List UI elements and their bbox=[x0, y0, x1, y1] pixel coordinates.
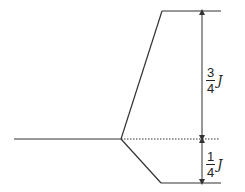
upper-denominator: 4 bbox=[207, 81, 214, 95]
lower-slope bbox=[121, 139, 161, 183]
upper-fraction-label: 3 4 J bbox=[206, 66, 222, 95]
upper-symbol: J bbox=[217, 73, 222, 88]
lower-denominator: 4 bbox=[207, 165, 214, 179]
upper-slope bbox=[121, 11, 162, 139]
lower-fraction-label: 1 4 J bbox=[206, 150, 222, 179]
upper-numerator: 3 bbox=[206, 66, 215, 81]
lower-symbol: J bbox=[217, 157, 222, 172]
lower-numerator: 1 bbox=[206, 150, 215, 165]
